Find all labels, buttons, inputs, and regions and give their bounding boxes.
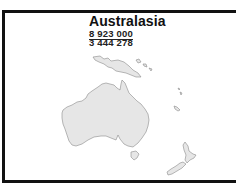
region-title: Australasia (89, 14, 166, 29)
australia-landmass (62, 80, 149, 147)
vanuatu-islands (178, 88, 182, 95)
new-caledonia (174, 106, 180, 111)
new-guinea-landmass (93, 56, 141, 77)
tasmania (131, 151, 139, 160)
solomon-islands (136, 59, 152, 71)
new-zealand-north-island (183, 142, 196, 163)
new-zealand-south-island (167, 162, 186, 175)
figure-secondary: 3 444 278 (89, 38, 133, 48)
